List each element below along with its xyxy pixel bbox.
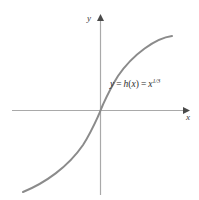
curve-equation-label: y=h(x)=x1/3 <box>110 80 160 90</box>
x-axis-label: x <box>186 113 190 122</box>
cube-root-curve <box>23 36 172 192</box>
equation-equals-1: = <box>114 79 123 89</box>
y-axis-arrowhead <box>97 14 104 21</box>
plot-canvas <box>0 0 199 200</box>
equation-exponent: 1/3 <box>152 77 160 84</box>
cube-root-function-figure: y x y=h(x)=x1/3 <box>0 0 199 200</box>
y-axis-label: y <box>87 14 91 23</box>
equation-equals-2: = <box>139 79 148 89</box>
